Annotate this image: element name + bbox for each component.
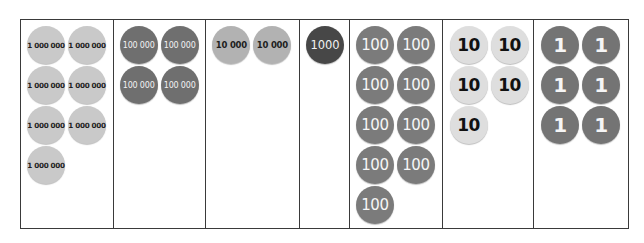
coin-tens: 10: [450, 66, 488, 104]
coin-ones: 1: [541, 106, 579, 144]
column-ones: 111111: [534, 20, 628, 228]
coin-ten-thousands: 10 000: [212, 26, 250, 64]
coin-ten-thousands: 10 000: [253, 26, 291, 64]
coin-millions: 1 000 000: [27, 146, 65, 184]
coin-tens: 10: [450, 106, 488, 144]
column-hundred-thousands: 100 000100 000100 000100 000: [114, 20, 207, 228]
coin-hundreds: 100: [397, 26, 435, 64]
coin-hundred-thousands: 100 000: [161, 66, 199, 104]
coin-hundreds: 100: [356, 66, 394, 104]
coin-millions: 1 000 000: [27, 106, 65, 144]
coin-millions: 1 000 000: [27, 26, 65, 64]
coin-millions: 1 000 000: [68, 106, 106, 144]
coin-hundreds: 100: [356, 106, 394, 144]
coin-hundreds: 100: [397, 66, 435, 104]
coin-hundred-thousands: 100 000: [161, 26, 199, 64]
coin-hundred-thousands: 100 000: [120, 26, 158, 64]
coin-millions: 1 000 000: [27, 66, 65, 104]
place-value-chart: 1 000 0001 000 0001 000 0001 000 0001 00…: [20, 19, 629, 229]
coin-thousands: 1000: [306, 26, 344, 64]
coin-hundreds: 100: [356, 146, 394, 184]
coin-hundreds: 100: [356, 186, 394, 224]
coin-ones: 1: [582, 26, 620, 64]
column-millions: 1 000 0001 000 0001 000 0001 000 0001 00…: [21, 20, 114, 228]
coin-ones: 1: [582, 106, 620, 144]
coin-ones: 1: [541, 66, 579, 104]
coin-tens: 10: [450, 26, 488, 64]
column-hundreds: 100100100100100100100100100: [350, 20, 443, 228]
column-thousands: 1000: [300, 20, 350, 228]
column-tens: 1010101010: [443, 20, 535, 228]
coin-tens: 10: [491, 66, 529, 104]
coin-hundreds: 100: [397, 146, 435, 184]
coin-hundreds: 100: [356, 26, 394, 64]
column-ten-thousands: 10 00010 000: [206, 20, 300, 228]
coin-millions: 1 000 000: [68, 26, 106, 64]
coin-hundreds: 100: [397, 106, 435, 144]
coin-ones: 1: [541, 26, 579, 64]
coin-hundred-thousands: 100 000: [120, 66, 158, 104]
coin-ones: 1: [582, 66, 620, 104]
coin-millions: 1 000 000: [68, 66, 106, 104]
coin-tens: 10: [491, 26, 529, 64]
